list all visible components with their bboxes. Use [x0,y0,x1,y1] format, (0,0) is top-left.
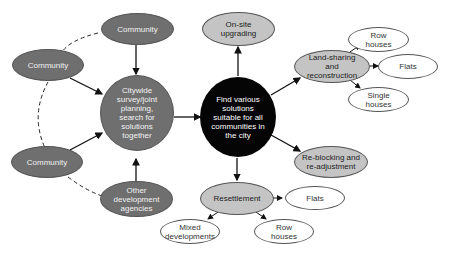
ls-row-houses-node: Row houses [348,27,409,52]
citywide-planning-node: Citywide survey/joint planning, search f… [100,75,174,151]
rs-row-houses-node: Row houses [254,219,314,244]
community-left-node: Community [12,49,84,81]
find-solutions-node: Find various solutions suitable for all … [200,77,276,157]
onsite-upgrading-node: On-site upgrading [202,12,275,46]
ls-flats-node: Flats [378,54,438,79]
ls-single-houses-node: Single houses [348,87,409,112]
resettlement-node: Resettlement [200,182,274,215]
community-bottom-node: Community [11,146,83,178]
rs-flats-node: Flats [285,186,345,210]
community-top-node: Community [101,13,174,45]
reblocking-node: Re-blocking and re-adjustment [294,146,368,178]
landsharing-node: Land-sharing and reconstruction [294,50,370,83]
rs-mixed-developments-node: Mixed developments [160,219,220,244]
other-agencies-node: Other development agencies [100,181,173,217]
